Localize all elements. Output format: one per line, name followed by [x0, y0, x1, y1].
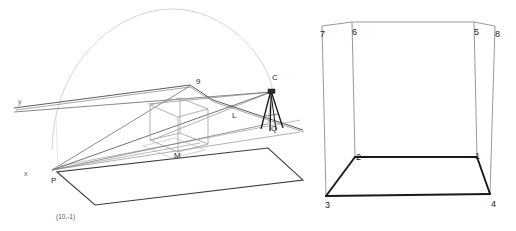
diagram-canvas: y x P C Q L M 9 (10,-1)	[0, 0, 516, 231]
edge-6-2	[352, 22, 355, 157]
label-point-p: P	[51, 176, 56, 185]
edge-5-8	[474, 22, 495, 26]
label-point-9: 9	[196, 77, 201, 86]
label-vertex-4: 4	[491, 199, 496, 209]
edge-1-4	[477, 157, 490, 194]
camera-body-icon	[268, 89, 275, 93]
figure-root: y x P C Q L M 9 (10,-1)	[0, 0, 516, 231]
tripod-leg-left	[261, 94, 270, 129]
upper-reference-plane	[14, 85, 303, 130]
left-perspective-scene: y x P C Q L M 9 (10,-1)	[14, 9, 304, 221]
ray-c-to-left	[14, 92, 271, 112]
ray-p-to-q	[52, 124, 268, 170]
edge-3-2	[326, 157, 355, 196]
label-vertex-5: 5	[474, 27, 479, 37]
label-vertex-1: 1	[475, 151, 480, 161]
label-point-q: Q	[271, 124, 277, 133]
edge-5-1	[474, 22, 477, 157]
label-y-axis: y	[18, 98, 22, 106]
edge-8-4	[490, 26, 495, 194]
label-point-m: M	[174, 151, 181, 160]
edge-7-6	[322, 22, 352, 26]
label-vertex-8: 8	[495, 29, 500, 39]
edge-7-3	[322, 26, 326, 196]
arc-drop-line	[56, 118, 58, 168]
dome-arc	[52, 9, 273, 150]
label-coordinate-pair: (10,-1)	[56, 213, 75, 221]
label-point-c: C	[272, 73, 278, 82]
label-x-axis: x	[24, 170, 28, 177]
box-thin-edges	[322, 22, 495, 196]
edge-3-4	[326, 194, 490, 196]
right-numbered-box: 1 2 3 4 5 6 7 8	[320, 22, 500, 210]
ray-c-to-cube-top	[148, 92, 271, 104]
cube-bottom-face	[150, 133, 208, 152]
tripod-brace	[265, 114, 279, 116]
label-vertex-7: 7	[320, 29, 325, 39]
label-point-l: L	[232, 111, 237, 120]
label-vertex-6: 6	[352, 27, 357, 37]
box-thick-edges	[326, 157, 490, 196]
label-vertex-3: 3	[325, 200, 330, 210]
label-vertex-2: 2	[356, 152, 361, 162]
